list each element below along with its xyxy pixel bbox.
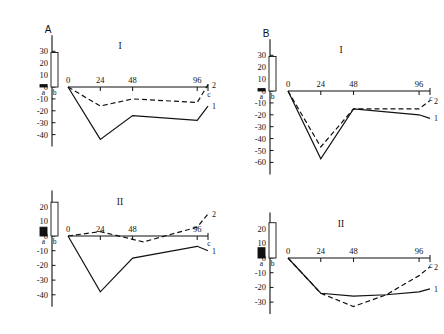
panel-title-i: I (339, 45, 342, 55)
x-axis-tick-label-c: c (207, 239, 211, 248)
curve-label-1: 1 (434, 114, 438, 123)
x-axis-tick-label: 96 (193, 75, 202, 85)
x-axis-tick-label: 24 (96, 75, 105, 85)
curve-2-dashed (288, 91, 430, 147)
curve-1-solid (68, 87, 208, 139)
curve-label-2: 2 (212, 81, 216, 90)
x-axis-tick-label: 0 (286, 79, 290, 89)
x-axis-tick-label-c: c (429, 261, 433, 270)
panel-letter-b: B (263, 28, 270, 39)
curve-label-1: 1 (434, 285, 438, 294)
y-axis-tick-label: -30 (37, 275, 48, 285)
y-axis-tick-label: -30 (255, 122, 266, 132)
y-axis-tick-label: 10 (258, 238, 267, 248)
curve-label-2: 2 (434, 263, 438, 272)
y-axis-tick-label: -60 (255, 157, 266, 167)
bar-label-b: b (271, 92, 275, 101)
panel-title-ii: II (338, 219, 344, 229)
y-axis-tick-label: -40 (37, 130, 48, 140)
y-axis-tick-label: -10 (37, 246, 48, 256)
figure-container: 3020100-10-20-30-40ab0244896c12AI20100-1… (0, 0, 444, 334)
curve-2-dashed (68, 85, 208, 106)
x-axis-tick-label: 24 (317, 79, 326, 89)
bar-a (40, 85, 47, 87)
x-axis-tick-label: 48 (349, 246, 358, 256)
panel-b-i: 3020100-10-20-30-40-50-60ab0244896c12BI (255, 28, 438, 174)
y-axis-tick-label: -30 (37, 118, 48, 128)
bar-b (51, 202, 58, 236)
curve-1-solid (68, 236, 208, 292)
y-axis-tick-label: 20 (40, 58, 49, 68)
bar-label-b: b (271, 259, 275, 268)
curve-label-1: 1 (212, 247, 216, 256)
x-axis-tick-label: 48 (128, 224, 137, 234)
y-axis-tick-label: -20 (37, 106, 48, 116)
bar-label-b: b (53, 88, 57, 97)
x-axis-tick-label: 0 (66, 224, 70, 234)
curve-label-1: 1 (212, 102, 216, 111)
curve-label-2: 2 (212, 210, 216, 219)
curve-1-solid (288, 258, 430, 296)
figure-plot-area: 3020100-10-20-30-40ab0244896c12AI20100-1… (0, 0, 444, 334)
curve-2-dashed (68, 214, 208, 242)
panel-a-i: 3020100-10-20-30-40ab0244896c12AI (37, 24, 216, 146)
y-axis-tick-label: -20 (255, 282, 266, 292)
bar-b (269, 56, 276, 91)
bar-label-b: b (53, 237, 57, 246)
y-axis-tick-label: 10 (258, 74, 267, 84)
x-axis-tick-label: 96 (193, 224, 202, 234)
panel-letter-a: A (45, 24, 52, 35)
bar-a (258, 248, 265, 258)
panel-b-ii: 20100-10-20-30ab0244896c12II (255, 213, 438, 315)
x-axis-tick-label: 48 (128, 75, 137, 85)
curve-1-solid (288, 91, 430, 159)
panel-title-i: I (118, 41, 121, 51)
panel-a-ii: 20100-10-20-30-40ab0244896c12II (37, 191, 216, 307)
x-axis-tick-label-c: c (429, 94, 433, 103)
x-axis-tick-label: 96 (415, 246, 424, 256)
y-axis-tick-label: -40 (37, 290, 48, 300)
x-axis-tick-label: 0 (286, 246, 290, 256)
y-axis-tick-label: -40 (255, 134, 266, 144)
y-axis-tick-label: -10 (255, 268, 266, 278)
x-axis-tick-label: 0 (66, 75, 70, 85)
y-axis-tick-label: 30 (258, 50, 267, 60)
y-axis-tick-label: -20 (255, 110, 266, 120)
panel-title-ii: II (117, 197, 123, 207)
x-axis-tick-label-c: c (207, 90, 211, 99)
bar-a (258, 89, 265, 91)
curve-2-dashed (288, 258, 430, 307)
bar-b (269, 223, 276, 258)
y-axis-tick-label: 10 (40, 216, 49, 226)
y-axis-tick-label: 30 (40, 46, 49, 56)
x-axis-tick-label: 96 (415, 79, 424, 89)
bar-b (51, 52, 58, 87)
x-axis-tick-label: 24 (317, 246, 326, 256)
bar-a (40, 227, 47, 236)
x-axis-tick-label: 48 (349, 79, 358, 89)
y-axis-tick-label: 20 (258, 62, 267, 72)
y-axis-tick-label: -30 (255, 297, 266, 307)
y-axis-tick-label: 20 (258, 224, 267, 234)
curve-label-2: 2 (434, 97, 438, 106)
y-axis-tick-label: 20 (40, 202, 49, 212)
y-axis-tick-label: -50 (255, 146, 266, 156)
y-axis-tick-label: -20 (37, 260, 48, 270)
y-axis-tick-label: 10 (40, 70, 49, 80)
